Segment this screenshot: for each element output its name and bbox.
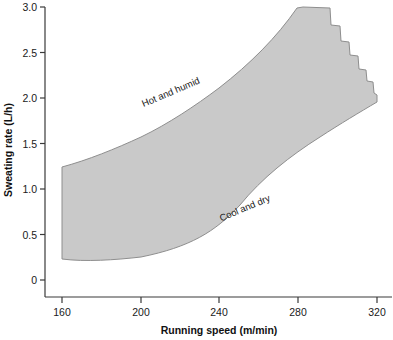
x-tick-label-1: 200 (132, 306, 150, 318)
x-tick-label-4: 320 (368, 306, 386, 318)
y-tick-label-3: 1.5 (22, 138, 37, 150)
hot-and-humid-label: Hot and humid (140, 75, 201, 109)
y-tick-label-5: 2.5 (22, 47, 37, 59)
y-tick-label-1: 0.5 (22, 229, 37, 241)
x-tick-label-0: 160 (53, 306, 71, 318)
y-axis-title: Sweating rate (L/h) (2, 103, 14, 197)
x-tick-label-2: 240 (210, 306, 228, 318)
x-tick-label-3: 280 (289, 306, 307, 318)
x-axis: 160 200 240 280 320 Running speed (m/min… (45, 297, 392, 336)
sweating-rate-area (62, 7, 377, 260)
sweating-rate-chart: 3.0 2.5 2.0 1.5 1.0 0.5 0 Sweating rate … (0, 0, 393, 340)
y-tick-label-4: 2.0 (22, 92, 37, 104)
chart-plot-area: 3.0 2.5 2.0 1.5 1.0 0.5 0 Sweating rate … (0, 0, 393, 340)
y-tick-label-6: 3.0 (22, 1, 37, 13)
x-axis-title: Running speed (m/min) (161, 324, 278, 336)
sweating-rate-band-group (62, 7, 377, 260)
y-axis: 3.0 2.5 2.0 1.5 1.0 0.5 0 Sweating rate … (2, 1, 45, 297)
y-tick-label-0: 0 (31, 274, 37, 286)
y-tick-label-2: 1.0 (22, 183, 37, 195)
